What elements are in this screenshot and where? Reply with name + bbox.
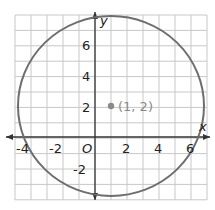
y-tick-label: -2 [73, 162, 86, 177]
x-axis-left-arrow-icon [6, 134, 13, 140]
x-axis-label: x [198, 119, 207, 134]
x-tick-label: -2 [49, 141, 62, 156]
y-axis-label: y [99, 13, 108, 28]
coordinate-plane: (1, 2) x y O -4 -2 2 4 6 6 4 2 -2 [0, 0, 215, 210]
y-tick-label: 4 [82, 69, 90, 84]
origin-label: O [82, 141, 92, 156]
center-point [108, 103, 114, 109]
y-tick-label: 6 [82, 38, 90, 53]
x-tick-label: 4 [154, 141, 162, 156]
center-label: (1, 2) [118, 99, 153, 114]
x-tick-label: -4 [16, 141, 29, 156]
x-tick-label: 2 [122, 141, 130, 156]
x-tick-label: 6 [186, 141, 194, 156]
y-tick-label: 2 [82, 100, 90, 115]
